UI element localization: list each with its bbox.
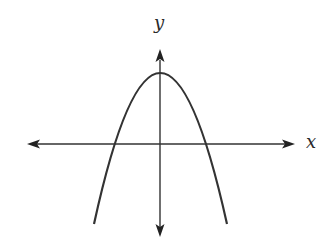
y-axis-label: y <box>154 14 164 32</box>
x-axis <box>27 140 295 149</box>
x-axis-label: x <box>306 133 316 151</box>
graph-canvas <box>0 0 331 237</box>
y-axis <box>156 49 165 237</box>
parabola-graph: y x <box>0 0 331 237</box>
